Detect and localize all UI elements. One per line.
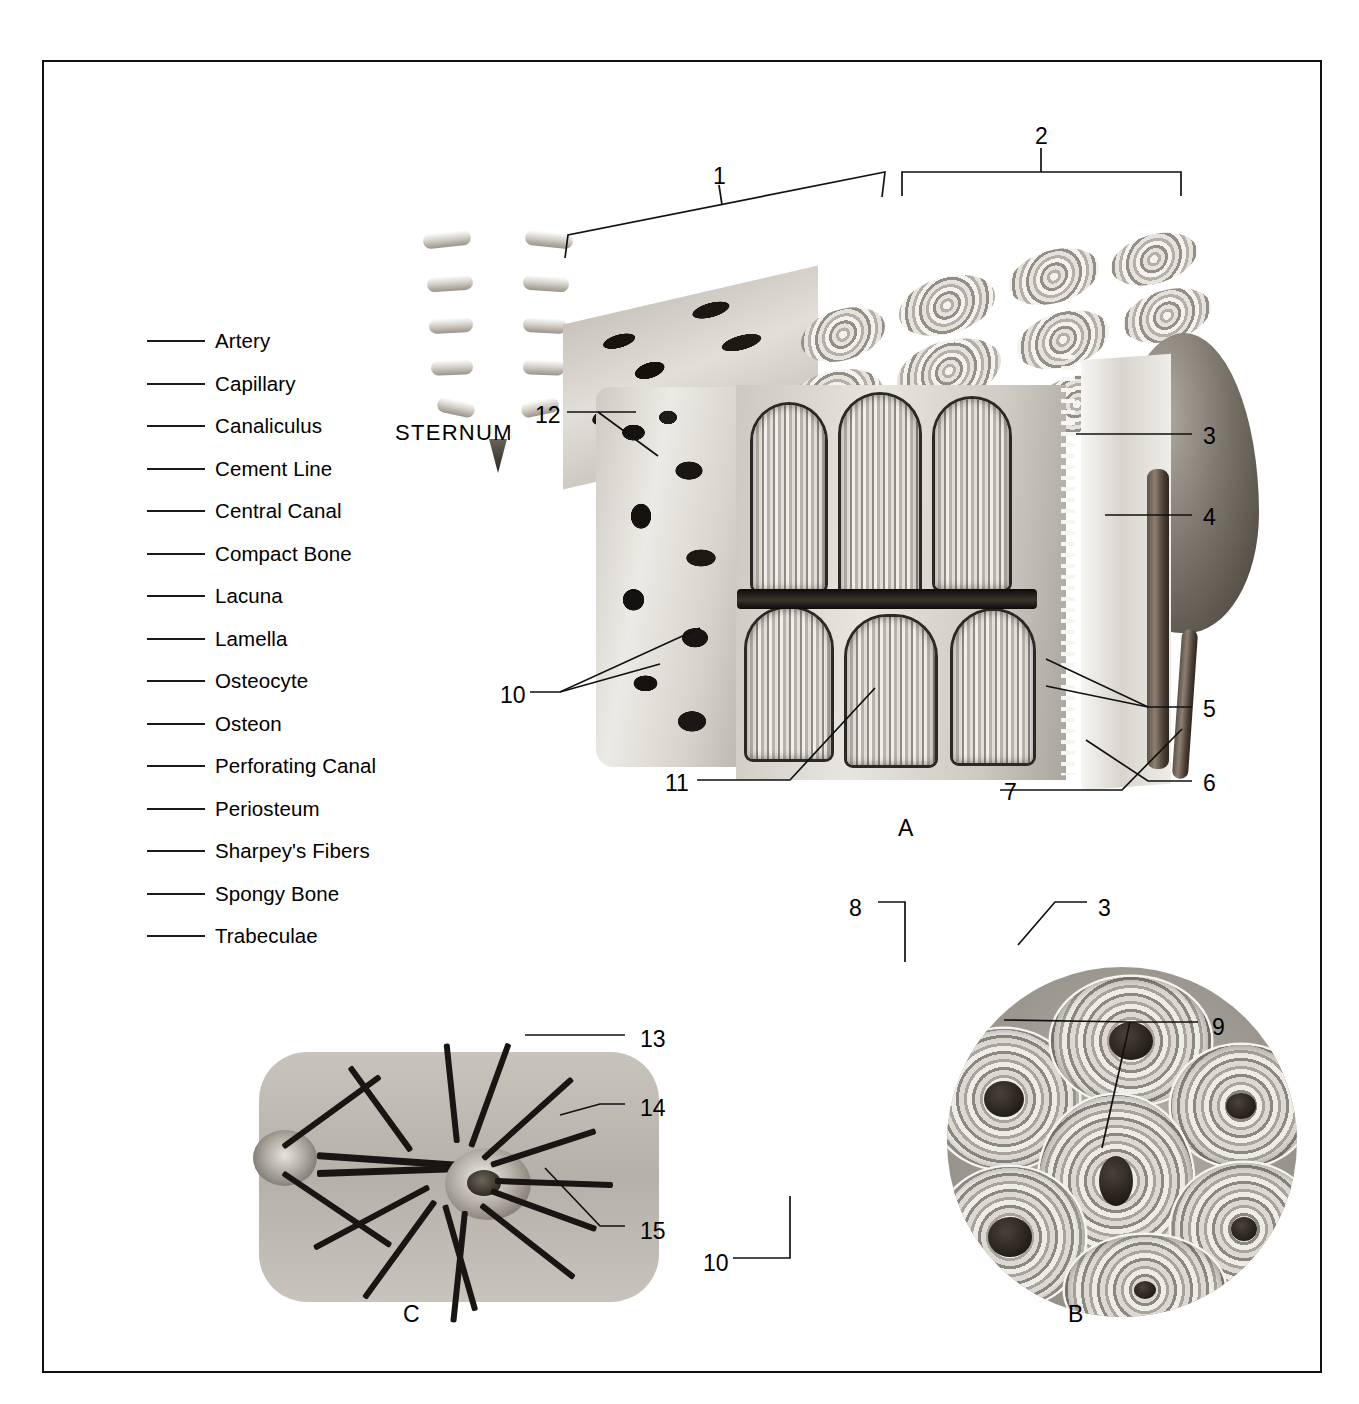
answer-blank-line[interactable] (147, 595, 205, 597)
answer-blank-line[interactable] (147, 383, 205, 385)
callout-a-number: 12 (535, 404, 561, 427)
callout-b-number: 8 (849, 897, 862, 920)
answer-blank-line[interactable] (147, 680, 205, 682)
callout-a-number: 1 (713, 165, 726, 188)
answer-blank-line[interactable] (147, 638, 205, 640)
answer-blank-line[interactable] (147, 340, 205, 342)
callout-c-number: 15 (640, 1220, 666, 1243)
word-bank-term: Canaliculus (215, 416, 322, 437)
word-bank-item: Sharpey's Fibers (147, 830, 447, 873)
word-bank-term: Lamella (215, 629, 288, 650)
answer-blank-line[interactable] (147, 468, 205, 470)
callout-c-number: 14 (640, 1097, 666, 1120)
answer-blank-line[interactable] (147, 850, 205, 852)
word-bank-term: Central Canal (215, 501, 342, 522)
callout-a-number: 11 (665, 772, 689, 795)
panel-label-c: C (403, 1303, 420, 1326)
panel-label-b: B (1068, 1303, 1083, 1326)
figure-frame: ArteryCapillaryCanaliculusCement LineCen… (42, 60, 1322, 1373)
callout-a-number: 7 (1004, 781, 1017, 804)
word-bank-term: Lacuna (215, 586, 283, 607)
word-bank-term: Trabeculae (215, 926, 318, 947)
word-bank-item: Periosteum (147, 788, 447, 831)
callout-a-number: 3 (1203, 425, 1216, 448)
answer-blank-line[interactable] (147, 808, 205, 810)
word-bank-term: Osteocyte (215, 671, 308, 692)
word-bank-item: Perforating Canal (147, 745, 447, 788)
word-bank-term: Compact Bone (215, 544, 352, 565)
callout-a-number: 2 (1035, 125, 1048, 148)
word-bank-item: Osteocyte (147, 660, 447, 703)
callout-a-number: 5 (1203, 698, 1216, 721)
word-bank-item: Osteon (147, 703, 447, 746)
panel-label-a: A (898, 817, 913, 840)
word-bank-list: ArteryCapillaryCanaliculusCement LineCen… (147, 320, 447, 958)
word-bank-term: Osteon (215, 714, 282, 735)
answer-blank-line[interactable] (147, 425, 205, 427)
word-bank-item: Artery (147, 320, 447, 363)
panel-a-bone-block (541, 237, 1271, 852)
answer-blank-line[interactable] (147, 553, 205, 555)
word-bank-item: Spongy Bone (147, 873, 447, 916)
word-bank-term: Capillary (215, 374, 296, 395)
callout-b-number: 10 (703, 1252, 729, 1275)
answer-blank-line[interactable] (147, 893, 205, 895)
word-bank-term: Artery (215, 331, 270, 352)
sternum-caption: STERNUM (395, 420, 513, 446)
word-bank-term: Periosteum (215, 799, 320, 820)
answer-blank-line[interactable] (147, 765, 205, 767)
panel-c-osteocyte (259, 1052, 659, 1302)
callout-b-number: 9 (1212, 1016, 1225, 1039)
word-bank-item: Lacuna (147, 575, 447, 618)
word-bank-term: Cement Line (215, 459, 332, 480)
word-bank-term: Sharpey's Fibers (215, 841, 370, 862)
word-bank-item: Trabeculae (147, 915, 447, 958)
callout-a-number: 6 (1203, 772, 1216, 795)
callout-c-number: 13 (640, 1028, 666, 1051)
word-bank-item: Cement Line (147, 448, 447, 491)
callout-a-number: 10 (500, 684, 526, 707)
word-bank-term: Perforating Canal (215, 756, 376, 777)
answer-blank-line[interactable] (147, 510, 205, 512)
callout-b-number: 3 (1098, 897, 1111, 920)
word-bank-item: Central Canal (147, 490, 447, 533)
answer-blank-line[interactable] (147, 723, 205, 725)
panel-b-osteon-cross-section (947, 967, 1297, 1317)
word-bank-item: Lamella (147, 618, 447, 661)
answer-blank-line[interactable] (147, 935, 205, 937)
word-bank-term: Spongy Bone (215, 884, 339, 905)
callout-a-number: 4 (1203, 506, 1216, 529)
word-bank-item: Capillary (147, 363, 447, 406)
word-bank-item: Compact Bone (147, 533, 447, 576)
